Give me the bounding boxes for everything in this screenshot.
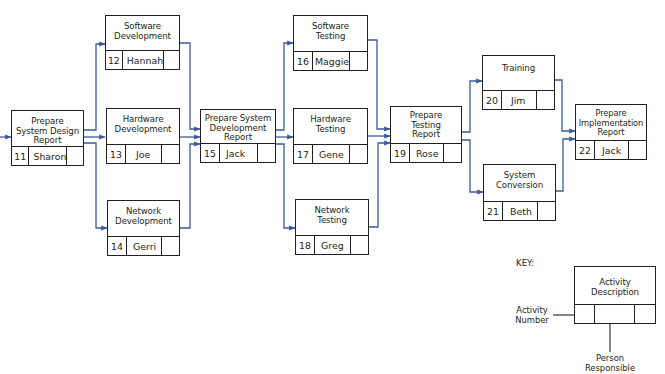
- key-empty-cell: [635, 305, 655, 323]
- activity-number: 12: [106, 51, 123, 69]
- person-responsible: Hannah: [123, 51, 164, 69]
- activity-15: Prepare System Development Report 15Jack: [200, 109, 276, 163]
- activity-12: Software Development 12Hannah: [105, 15, 180, 70]
- activity-number: 22: [576, 141, 595, 159]
- empty-cell: [351, 236, 368, 254]
- person-responsible: Gene: [313, 145, 350, 163]
- activity-description: System Conversion: [484, 165, 555, 190]
- empty-cell: [444, 144, 461, 162]
- empty-cell: [538, 202, 555, 220]
- empty-cell: [258, 144, 275, 162]
- activity-16: Software Testing 16Maggie: [293, 15, 368, 71]
- edge-12-15: [180, 43, 200, 129]
- person-responsible: Rose: [410, 144, 444, 162]
- person-responsible: Joe: [126, 145, 162, 163]
- activity-description: Software Development: [106, 16, 179, 41]
- empty-cell: [162, 145, 179, 163]
- activity-number: 11: [12, 147, 29, 165]
- activity-11: Prepare System Design Report 11Sharon: [11, 110, 84, 166]
- key-activity-description: Activity Description: [575, 267, 655, 297]
- activity-description: Prepare Implementation Report: [576, 105, 646, 138]
- activity-number: 19: [391, 144, 410, 162]
- activity-description: Network Development: [108, 201, 179, 226]
- activity-description: Hardware Development: [107, 109, 179, 134]
- empty-cell: [67, 147, 83, 165]
- edge-11-12: [84, 44, 105, 130]
- person-responsible: Beth: [503, 202, 538, 220]
- activity-number: 16: [294, 52, 313, 70]
- activity-18: Network Testing 18Greg: [295, 199, 369, 255]
- edge-11-14: [84, 143, 107, 228]
- activity-13: Hardware Development 13Joe: [106, 108, 180, 164]
- empty-cell: [350, 145, 367, 163]
- person-responsible: Greg: [315, 236, 351, 254]
- empty-cell: [537, 91, 554, 109]
- key-person-cell: [595, 305, 635, 323]
- empty-cell: [629, 141, 646, 159]
- edge-16-19: [368, 40, 390, 129]
- edge-19-20: [462, 81, 482, 132]
- person-responsible: Jim: [502, 91, 537, 109]
- activity-17: Hardware Testing 17Gene: [293, 108, 368, 164]
- empty-cell: [164, 51, 179, 69]
- person-responsible: Gerri: [127, 237, 162, 255]
- key-number-cell: [575, 305, 595, 323]
- key-title: KEY:: [516, 258, 534, 268]
- activity-20: Training 20Jim: [482, 55, 555, 110]
- person-responsible: Jack: [220, 144, 258, 162]
- edge-20-22: [555, 80, 575, 131]
- activity-number: 18: [296, 236, 315, 254]
- activity-description: Prepare System Development Report: [201, 110, 275, 143]
- edge-15-16: [276, 43, 293, 130]
- activity-description: Software Testing: [294, 16, 367, 41]
- key-box: Activity Description: [574, 266, 656, 324]
- activity-description: Network Testing: [296, 200, 368, 225]
- activity-number: 14: [108, 237, 127, 255]
- activity-number: 17: [294, 145, 313, 163]
- empty-cell: [350, 52, 367, 70]
- activity-14: Network Development 14Gerri: [107, 200, 180, 256]
- edge-14-15: [180, 144, 200, 228]
- empty-cell: [162, 237, 179, 255]
- key-person-responsible-label: Person Responsible: [580, 354, 640, 373]
- activity-number: 21: [484, 202, 503, 220]
- person-responsible: Sharon: [29, 147, 67, 165]
- activity-description: Hardware Testing: [294, 109, 367, 134]
- activity-description: Prepare Testing Report: [391, 107, 461, 140]
- edge-18-19: [369, 143, 390, 227]
- edge-21-22: [556, 139, 575, 191]
- edge-19-21: [462, 140, 483, 192]
- person-responsible: Jack: [595, 141, 629, 159]
- key-activity-number-label: Activity Number: [512, 306, 552, 325]
- activity-21: System Conversion 21Beth: [483, 164, 556, 221]
- activity-number: 20: [483, 91, 502, 109]
- person-responsible: Maggie: [313, 52, 350, 70]
- activity-number: 15: [201, 144, 220, 162]
- activity-number: 13: [107, 145, 126, 163]
- activity-19: Prepare Testing Report 19Rose: [390, 106, 462, 163]
- activity-description: Training: [483, 56, 554, 74]
- activity-22: Prepare Implementation Report 22Jack: [575, 104, 647, 160]
